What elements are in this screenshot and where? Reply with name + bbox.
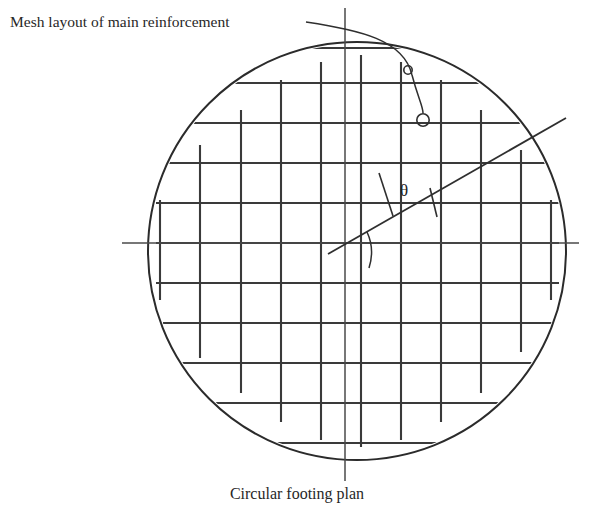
angle-leg-upper — [379, 173, 393, 216]
circular-footing-diagram: θ Mesh layout of main reinforcement Circ… — [0, 0, 594, 508]
reinforcement-mesh — [156, 48, 559, 447]
angle-theta-label: θ — [400, 181, 408, 200]
rebar-node-marker-large — [417, 114, 429, 126]
vertical-rebars — [160, 55, 551, 447]
horizontal-rebars — [156, 48, 559, 443]
angle-arc — [367, 232, 372, 268]
mesh-annotation-label: Mesh layout of main reinforcement — [10, 13, 230, 30]
diagonal-reference-line — [328, 118, 566, 254]
annotation-leader-group — [306, 22, 429, 126]
figure-caption: Circular footing plan — [230, 485, 364, 503]
footing-outline-circle — [148, 42, 566, 460]
figure-page: θ Mesh layout of main reinforcement Circ… — [0, 0, 594, 508]
